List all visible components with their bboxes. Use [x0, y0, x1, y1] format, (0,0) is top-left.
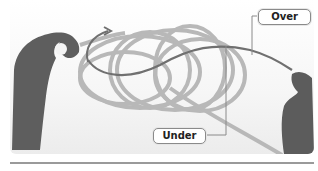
left-hand [12, 33, 79, 150]
under-label: Under [153, 128, 206, 144]
knot-illustration: Over Under [10, 0, 314, 154]
over-label: Over [258, 9, 311, 25]
right-hand [282, 72, 314, 154]
divider-rule [10, 162, 314, 164]
